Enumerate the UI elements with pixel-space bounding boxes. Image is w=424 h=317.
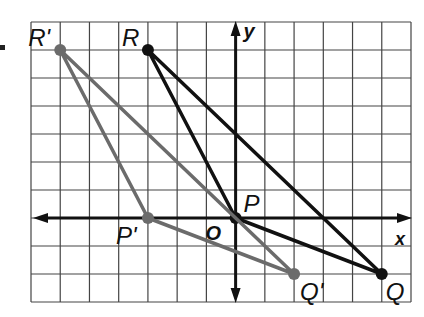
vertex-label-r: R: [122, 24, 139, 51]
coordinate-plane: yxOPQRP'Q'R': [0, 0, 424, 317]
vertex-label-q-prime: Q': [300, 278, 325, 305]
vertex-label-p: P: [244, 190, 260, 217]
problem-number-bullet: [0, 45, 5, 50]
diagram-stage: yxOPQRP'Q'R': [0, 0, 424, 317]
vertex-point-p-prime: [142, 212, 154, 224]
x-axis-right-arrow-icon: [397, 213, 412, 223]
x-axis-label: x: [394, 229, 406, 249]
y-axis-up-arrow-icon: [231, 21, 241, 36]
y-axis-label: y: [243, 20, 256, 42]
origin-label: O: [206, 222, 222, 244]
vertex-label-q: Q: [386, 278, 405, 305]
grid-lines: [31, 22, 411, 302]
x-axis-left-arrow-icon: [33, 213, 48, 223]
vertex-label-p-prime: P': [116, 222, 138, 249]
vertex-point-q-prime: [288, 268, 300, 280]
vertex-label-r-prime: R': [28, 24, 51, 51]
vertex-point-r-prime: [54, 44, 66, 56]
y-axis-down-arrow-icon: [231, 288, 241, 303]
vertex-point-r: [142, 44, 154, 56]
